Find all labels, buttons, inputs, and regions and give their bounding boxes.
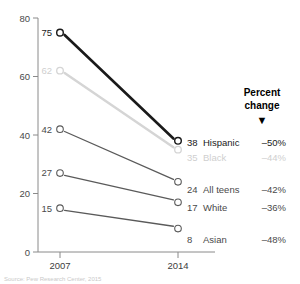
y-axis-ticks	[33, 18, 38, 252]
y-tick-label-20: 20	[19, 188, 30, 199]
data-point-marker	[175, 146, 182, 153]
x-tick-label-2007: 2007	[49, 260, 70, 271]
data-point-marker	[57, 67, 64, 74]
data-point-marker	[57, 205, 64, 212]
percent-change-header-line2: change	[244, 100, 279, 111]
start-value-label: 75	[41, 27, 52, 38]
data-point-marker	[57, 126, 64, 133]
y-tick-label-40: 40	[19, 130, 30, 141]
data-point-marker	[57, 29, 64, 36]
slope-chart: 0 20 40 60 80 2007 2014 7538Hispanic–50%…	[0, 0, 300, 284]
x-axis-tick-labels: 2007 2014	[49, 260, 188, 271]
x-axis-ticks	[60, 252, 178, 258]
percent-change-header-line1: Percent	[244, 87, 281, 98]
end-value-label: 35	[187, 152, 198, 163]
series-line	[65, 35, 174, 139]
start-value-label: 27	[41, 167, 52, 178]
footnote-text: Source: Pew Research Center, 2015	[4, 276, 102, 282]
series-line	[65, 131, 174, 179]
series-name-label: White	[203, 202, 227, 213]
y-axis-tick-labels: 0 20 40 60 80	[19, 13, 30, 258]
end-value-label: 38	[187, 137, 198, 148]
data-point-marker	[57, 170, 64, 177]
end-value-label: 17	[187, 202, 198, 213]
start-value-label: 42	[41, 124, 52, 135]
data-point-marker	[175, 199, 182, 206]
percent-change-value: –44%	[262, 152, 287, 163]
chart-canvas: 0 20 40 60 80 2007 2014 7538Hispanic–50%…	[0, 0, 300, 284]
triangle-down-icon: ▼	[257, 114, 268, 126]
y-tick-label-60: 60	[19, 71, 30, 82]
start-value-label: 15	[41, 203, 52, 214]
percent-change-header: Percent change ▼	[244, 87, 281, 126]
series-black: 6235Black–44%	[41, 65, 286, 162]
percent-change-value: –48%	[262, 234, 287, 245]
percent-change-value: –42%	[262, 184, 287, 195]
data-point-marker	[175, 138, 182, 145]
series-name-label: Asian	[203, 234, 227, 245]
percent-change-value: –50%	[262, 137, 287, 148]
end-value-label: 8	[187, 234, 192, 245]
series-name-label: Hispanic	[203, 137, 240, 148]
series-line	[65, 210, 174, 226]
series-name-label: Black	[203, 152, 226, 163]
series-all-teens: 4224All teens–42%	[41, 124, 286, 195]
data-point-marker	[175, 225, 182, 232]
percent-change-value: –36%	[262, 202, 287, 213]
series-white: 2717White–36%	[41, 167, 286, 212]
series-layer: 7538Hispanic–50%6235Black–44%4224All tee…	[41, 27, 286, 244]
series-name-label: All teens	[203, 184, 240, 195]
y-tick-label-0: 0	[25, 247, 30, 258]
x-tick-label-2014: 2014	[167, 260, 188, 271]
data-point-marker	[175, 179, 182, 186]
series-asian: 158Asian–48%	[41, 203, 286, 245]
start-value-label: 62	[41, 65, 52, 76]
series-line	[65, 73, 174, 147]
series-line	[65, 175, 174, 200]
y-tick-label-80: 80	[19, 13, 30, 24]
end-value-label: 24	[187, 184, 198, 195]
